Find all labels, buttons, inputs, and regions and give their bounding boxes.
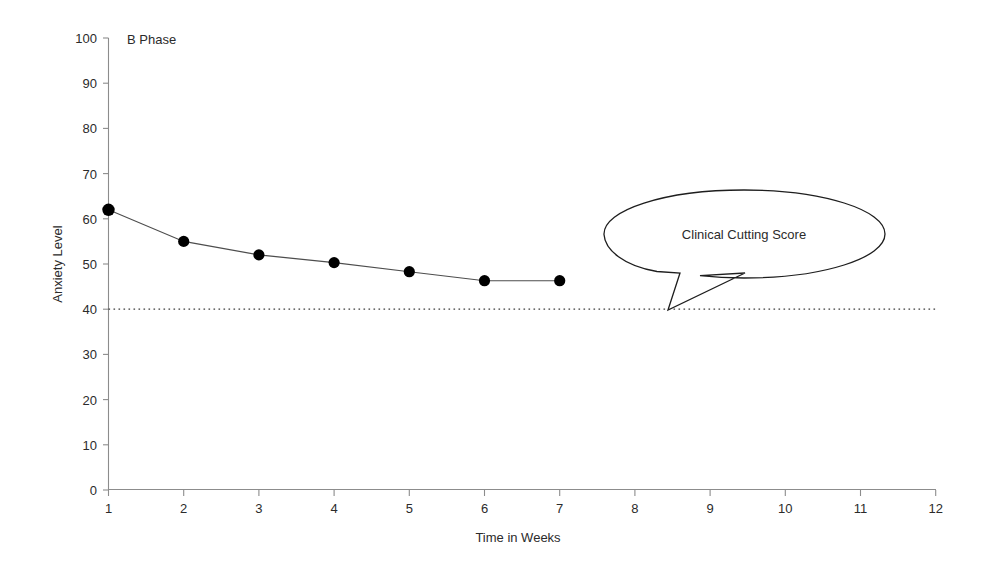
y-tick-label: 30 — [83, 347, 97, 362]
y-tick-label: 100 — [75, 31, 97, 46]
x-tick-label: 1 — [105, 501, 112, 516]
phase-label: B Phase — [127, 32, 176, 47]
y-tick-label: 10 — [83, 438, 97, 453]
chart-background — [0, 0, 988, 565]
data-point — [329, 257, 340, 268]
x-tick-label: 8 — [631, 501, 638, 516]
data-point — [404, 266, 415, 277]
data-point — [253, 249, 264, 260]
y-tick-label: 90 — [83, 76, 97, 91]
y-tick-label: 60 — [83, 212, 97, 227]
x-tick-label: 3 — [255, 501, 262, 516]
y-tick-label: 20 — [83, 393, 97, 408]
x-tick-label: 5 — [406, 501, 413, 516]
y-tick-label: 0 — [90, 483, 97, 498]
x-tick-label: 11 — [854, 501, 868, 516]
y-axis-title: Anxiety Level — [50, 225, 65, 302]
data-point — [178, 236, 189, 247]
y-tick-label: 70 — [83, 167, 97, 182]
data-point — [554, 275, 565, 286]
y-tick-label: 40 — [83, 302, 97, 317]
data-point — [102, 204, 114, 216]
x-axis-title: Time in Weeks — [475, 530, 561, 545]
anxiety-level-line-chart: 100 90 80 70 60 50 — [0, 0, 988, 565]
data-point — [479, 275, 490, 286]
x-tick-label: 7 — [556, 501, 563, 516]
x-tick-label: 2 — [180, 501, 187, 516]
x-tick-label: 10 — [778, 501, 792, 516]
x-tick-label: 4 — [330, 501, 337, 516]
y-tick-label: 50 — [83, 257, 97, 272]
x-tick-label: 12 — [928, 501, 942, 516]
x-tick-label: 9 — [706, 501, 713, 516]
chart-container: 100 90 80 70 60 50 — [0, 0, 988, 565]
callout-text: Clinical Cutting Score — [682, 227, 806, 242]
y-tick-label: 80 — [83, 121, 97, 136]
x-tick-label: 6 — [481, 501, 488, 516]
